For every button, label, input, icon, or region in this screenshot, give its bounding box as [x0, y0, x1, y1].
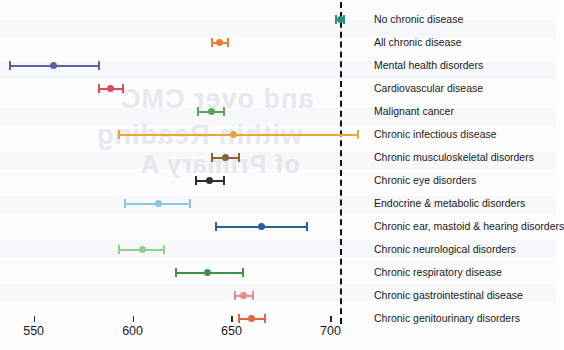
error-bar-cap-low [124, 199, 126, 208]
point-estimate-marker[interactable] [155, 200, 162, 207]
error-bar-cap-low [118, 130, 120, 139]
category-label: Chronic eye disorders [374, 169, 476, 192]
category-label: Chronic musculoskeletal disorders [374, 146, 534, 169]
error-bar-row [0, 146, 370, 169]
error-bar-cap-high [189, 199, 191, 208]
x-axis-tick-label: 650 [221, 324, 242, 338]
error-bar-row [0, 54, 370, 77]
point-estimate-marker[interactable] [50, 62, 57, 69]
error-bar-row [0, 8, 370, 31]
category-label: Chronic genitourinary disorders [374, 307, 520, 330]
category-label: Cardiovascular disease [374, 77, 483, 100]
category-label: Endocrine & metabolic disorders [374, 192, 525, 215]
error-bar-cap-high [163, 245, 165, 254]
error-bar-cap-low [234, 291, 236, 300]
category-label: Chronic respiratory disease [374, 261, 502, 284]
error-bar-cap-high [306, 222, 308, 231]
x-axis-tick [231, 316, 232, 322]
error-bar-cap-low [195, 176, 197, 185]
point-estimate-marker[interactable] [139, 246, 146, 253]
error-bar-row [0, 192, 370, 215]
point-estimate-marker[interactable] [230, 131, 237, 138]
error-bar-cap-high [223, 176, 225, 185]
error-bar-cap-high [238, 153, 240, 162]
point-estimate-marker[interactable] [337, 16, 344, 23]
x-axis-tick [34, 316, 35, 322]
point-estimate-marker[interactable] [216, 39, 223, 46]
category-label: Mental health disorders [374, 54, 483, 77]
error-bar-row [0, 215, 370, 238]
error-bar-row [0, 31, 370, 54]
category-label: Chronic neurological disorders [374, 238, 516, 261]
point-estimate-marker[interactable] [204, 269, 211, 276]
point-estimate-marker[interactable] [222, 154, 229, 161]
error-bar-row [0, 100, 370, 123]
error-bar-cap-high [98, 61, 100, 70]
error-bar-cap-high [252, 291, 254, 300]
error-bar-row [0, 238, 370, 261]
error-bar-cap-high [357, 130, 359, 139]
point-estimate-marker[interactable] [240, 292, 247, 299]
error-bar-cap-low [118, 245, 120, 254]
category-label: Malignant cancer [374, 100, 454, 123]
point-estimate-marker[interactable] [206, 177, 213, 184]
category-label: All chronic disease [374, 31, 462, 54]
x-axis: 550600650700 [0, 312, 370, 350]
category-label: Chronic ear, mastoid & hearing disorders [374, 215, 564, 238]
point-estimate-marker[interactable] [208, 108, 215, 115]
error-bar-cap-low [175, 268, 177, 277]
error-bar-cap-low [9, 61, 11, 70]
category-label-column: No chronic diseaseAll chronic diseaseMen… [374, 0, 556, 312]
x-axis-tick [133, 316, 134, 322]
error-bar-cap-low [197, 107, 199, 116]
error-bar-cap-low [211, 153, 213, 162]
error-bar-cap-low [215, 222, 217, 231]
error-bar-cap-high [242, 268, 244, 277]
plot-area [0, 0, 370, 312]
error-bar-cap-high [122, 84, 124, 93]
error-bar-cap-high [223, 107, 225, 116]
category-label: Chronic gastrointestinal disease [374, 284, 523, 307]
error-bar-row [0, 169, 370, 192]
x-axis-tick-label: 550 [23, 324, 44, 338]
error-bar-cap-low [98, 84, 100, 93]
point-estimate-marker[interactable] [258, 223, 265, 230]
x-axis-tick-label: 700 [320, 324, 341, 338]
error-bar-cap-low [211, 38, 213, 47]
error-bar-cap-high [227, 38, 229, 47]
error-bar-row [0, 123, 370, 146]
category-label: No chronic disease [374, 8, 463, 31]
error-bar-row [0, 261, 370, 284]
confidence-interval-bar [119, 134, 358, 136]
error-bar-row [0, 284, 370, 307]
category-label: Chronic infectious disease [374, 123, 497, 146]
x-axis-tick-label: 600 [122, 324, 143, 338]
x-axis-tick [330, 316, 331, 322]
point-estimate-marker[interactable] [107, 85, 114, 92]
error-bar-row [0, 77, 370, 100]
